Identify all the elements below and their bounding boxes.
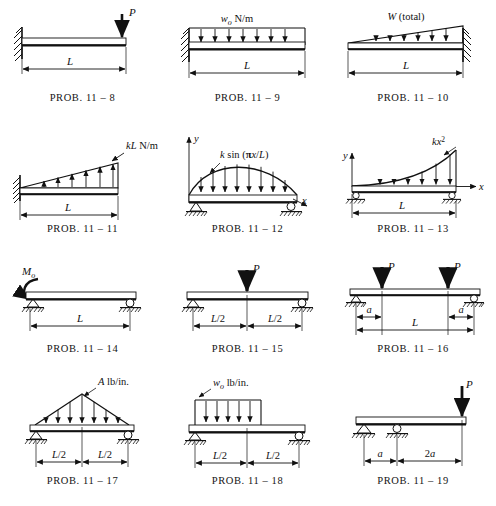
- dimension-a: a: [364, 435, 397, 466]
- dimension-label-L: L: [66, 55, 73, 67]
- load-label-kx2: kx2: [432, 135, 445, 148]
- distributed-load: wo N/m: [189, 13, 305, 45]
- dimension-label-L-half-left: L/2: [51, 449, 66, 460]
- panel-caption: PROB. 11 – 19: [377, 475, 449, 486]
- dimension-label-2a: 2a: [425, 448, 436, 459]
- dimension-label-L-half-left: L/2: [210, 313, 225, 324]
- dimension-L: L: [30, 309, 130, 331]
- dimension-2a: 2a: [398, 420, 462, 466]
- beam: [22, 38, 126, 45]
- axis-label-y: y: [342, 150, 348, 161]
- dimension-L: L: [22, 47, 126, 74]
- fixed-support-icon: [463, 28, 471, 62]
- dimension-label-L-half-left: L/2: [212, 450, 227, 461]
- beam: [352, 186, 456, 192]
- pin-support-icon: [185, 202, 207, 216]
- figure-panel-prob-11-12: y k sin (πx/L): [165, 125, 330, 255]
- panel-caption: PROB. 11 – 15: [212, 343, 284, 354]
- sinusoidal-load: k sin (πx/L): [189, 149, 297, 195]
- beam-diagram-prob-11-18: wo lb/in.: [165, 372, 330, 477]
- dimension-label-L: L: [76, 312, 83, 324]
- roller-support-icon: [280, 203, 302, 217]
- dimension-half-span-right: L/2: [248, 309, 302, 331]
- figure-panel-prob-11-14: Mo: [0, 255, 165, 372]
- panel-caption: PROB. 11 – 13: [377, 223, 449, 234]
- beam: [356, 417, 466, 424]
- panel-caption: PROB. 11 – 12: [212, 223, 284, 234]
- beam-diagram-prob-11-10: W (total) L: [330, 0, 496, 95]
- dimension-L: L: [348, 51, 463, 78]
- panel-caption: PROB. 11 – 10: [377, 92, 449, 103]
- dimension-label-L: L: [64, 201, 71, 213]
- roller-support-icon: [463, 295, 484, 307]
- axis-label-x: x: [301, 195, 307, 206]
- figure-sheet: P L PROB. 11 – 8: [0, 0, 496, 506]
- load-label-M0: Mo: [21, 265, 35, 280]
- dimension-L: L: [357, 316, 473, 330]
- point-load-arrow-left: P: [382, 260, 395, 288]
- dimension-half-span-left: L/2: [195, 428, 247, 468]
- figure-panel-prob-11-19: P: [330, 372, 496, 506]
- roller-support-right-icon: [442, 192, 461, 203]
- beam: [26, 292, 136, 299]
- figure-panel-prob-11-10: W (total) L PROB. 11 – 10: [330, 0, 496, 125]
- dimension-label-a-left: a: [366, 304, 371, 315]
- beam-diagram-prob-11-17: A lb/in.: [0, 372, 165, 477]
- triangular-load: A lb/in.: [35, 376, 129, 425]
- pin-support-icon: [345, 295, 366, 307]
- beam-diagram-prob-11-14: Mo: [0, 255, 165, 345]
- load-label-w0: wo N/m: [221, 13, 253, 27]
- load-label-A: A lb/in.: [97, 376, 129, 387]
- figure-panel-prob-11-8: P L PROB. 11 – 8: [0, 0, 165, 125]
- figure-panel-prob-11-13: y kx2: [330, 125, 496, 255]
- parabolic-load: kx2: [352, 135, 456, 187]
- load-label-sine: k sin (πx/L): [220, 149, 269, 161]
- fixed-support-icon: [181, 28, 189, 62]
- figure-panel-prob-11-9: wo N/m L PROB. 11 – 9: [165, 0, 330, 125]
- dimension-a-left: a: [356, 291, 382, 335]
- beam-diagram-prob-11-9: wo N/m L: [165, 0, 330, 95]
- figure-grid: P L PROB. 11 – 8: [0, 0, 496, 506]
- dimension-label-L-half-right: L/2: [265, 450, 280, 461]
- beam-diagram-prob-11-13: y kx2: [330, 125, 496, 225]
- triangular-load: W (total): [348, 11, 463, 43]
- panel-caption: PROB. 11 – 16: [377, 343, 449, 354]
- dimension-label-L-half-right: L/2: [267, 313, 282, 324]
- panel-caption: PROB. 11 – 11: [47, 223, 118, 234]
- roller-support-left-icon: [346, 192, 365, 203]
- pin-support-icon: [352, 424, 375, 438]
- dimension-L: L: [352, 194, 456, 218]
- panel-caption: PROB. 11 – 17: [47, 475, 119, 486]
- load-label-P-right: P: [453, 260, 461, 272]
- beam-diagram-prob-11-15: P: [165, 255, 330, 345]
- point-load-arrow: P: [247, 262, 260, 291]
- dimension-half-span-right: L/2: [248, 442, 299, 468]
- beam: [187, 292, 308, 299]
- triangular-load: kL N/m: [20, 140, 158, 188]
- beam: [348, 43, 463, 49]
- point-load-arrow: P: [462, 378, 473, 416]
- fixed-support-icon: [13, 175, 20, 203]
- load-label-P: P: [128, 6, 136, 18]
- dimension-L: L: [20, 196, 118, 220]
- load-label-P-left: P: [387, 260, 395, 272]
- dimension-label-a: a: [377, 448, 382, 459]
- load-label-P: P: [252, 262, 260, 274]
- figure-panel-prob-11-18: wo lb/in.: [165, 372, 330, 506]
- dimension-label-L: L: [243, 59, 250, 71]
- dimension-label-L-half-right: L/2: [97, 449, 112, 460]
- figure-panel-prob-11-16: P P: [330, 255, 496, 372]
- dimension-half-span-left: L/2: [36, 427, 82, 467]
- dimension-half-span-right: L/2: [83, 441, 128, 467]
- dimension-label-a-right: a: [458, 304, 463, 315]
- dimension-label-L: L: [398, 199, 405, 211]
- pin-support-icon: [22, 299, 44, 312]
- figure-panel-prob-11-15: P: [165, 255, 330, 372]
- axis-y: y: [342, 150, 352, 187]
- axis-label-x: x: [478, 181, 484, 192]
- beam: [189, 195, 297, 202]
- load-label-kL: kL N/m: [126, 140, 158, 151]
- beam: [20, 188, 118, 194]
- beam-diagram-prob-11-11: kL N/m L: [0, 125, 165, 225]
- panel-caption: PROB. 11 – 8: [50, 92, 116, 103]
